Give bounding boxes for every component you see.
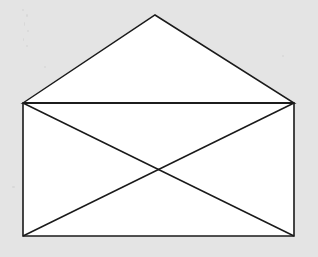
image-canvas: Envelope line drawing Outline drawing of… [0, 0, 318, 257]
envelope-flap-fill [23, 15, 294, 103]
envelope-line-drawing: Envelope line drawing Outline drawing of… [0, 0, 318, 257]
